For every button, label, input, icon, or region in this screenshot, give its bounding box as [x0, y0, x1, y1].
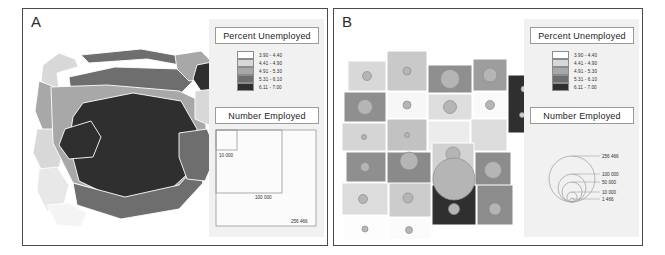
swatch-color-2 — [237, 59, 254, 67]
swatch-label-4: 5.31 - 6.10 — [259, 77, 282, 82]
prop-circle-b18 — [403, 193, 413, 203]
panel-b: B — [333, 8, 643, 246]
swatch-color-3 — [552, 67, 569, 75]
prop-circle-b22 — [362, 226, 368, 232]
prop-circle-b14 — [400, 152, 418, 170]
swatch-color-3 — [237, 67, 254, 75]
swatch-row: 6.11 - 7.00 — [552, 83, 597, 91]
panel-b-letter: B — [342, 13, 353, 30]
swatch-row: 4.41 - 4.90 — [237, 59, 282, 67]
legend-title-percent-unemployed-a: Percent Unemployed — [215, 27, 319, 44]
prop-circle-b23 — [406, 227, 413, 234]
prop-circle-b07 — [403, 101, 411, 109]
circle-label-256466: 256 466 — [602, 154, 619, 159]
size-legend-nested-circles: 256 466 100 000 50 000 10 000 1 466 — [528, 131, 636, 229]
legend-title-percent-unemployed-b: Percent Unemployed — [530, 27, 634, 44]
circle-break-256466 — [549, 156, 595, 202]
legend-title-number-employed-a: Number Employed — [215, 107, 319, 124]
cartogram-b-svg — [340, 33, 530, 239]
circle-label-10000: 10 000 — [602, 190, 616, 195]
prop-circle-b03 — [441, 70, 460, 89]
swatch-color-4 — [552, 75, 569, 83]
circle-break-10000 — [567, 192, 577, 202]
cartogram-a-svg — [29, 33, 219, 239]
legend-title-number-employed-b: Number Employed — [530, 107, 634, 124]
swatch-row: 5.31 - 6.10 — [552, 75, 597, 83]
swatch-label-4: 5.31 - 6.10 — [574, 77, 597, 82]
nested-squares-svg: 10 000 100 000 256 466 — [215, 129, 319, 229]
swatch-row: 3.90 - 4.40 — [552, 51, 597, 59]
prop-circle-b10 — [362, 135, 367, 140]
swatch-row: 6.11 - 7.00 — [237, 83, 282, 91]
swatch-color-5 — [552, 83, 569, 91]
size-legend-nested-squares: 10 000 100 000 256 466 — [215, 129, 319, 229]
square-label-100000: 100 000 — [255, 195, 272, 200]
swatch-color-1 — [552, 51, 569, 59]
swatch-label-1: 3.90 - 4.40 — [574, 53, 597, 58]
swatch-label-2: 4.41 - 4.90 — [259, 61, 282, 66]
prop-circle-b08 — [444, 101, 457, 114]
square-label-256466: 256 466 — [291, 219, 308, 224]
swatch-row: 3.90 - 4.40 — [237, 51, 282, 59]
prop-circle-b21 — [489, 203, 501, 215]
panel-a: A — [22, 8, 328, 246]
prop-circle-b20 — [449, 204, 460, 215]
prop-circle-b01 — [363, 72, 372, 81]
prop-circle-b11 — [405, 133, 410, 138]
circle-break-1466 — [570, 198, 574, 202]
square-break-256466 — [216, 130, 316, 226]
swatch-label-3: 4.91 - 5.30 — [259, 69, 282, 74]
prop-circle-b04 — [483, 68, 497, 82]
prop-circle-b19 — [433, 158, 475, 200]
choropleth-swatches-a: 3.90 - 4.40 4.41 - 4.90 4.91 - 5.30 5.31… — [237, 51, 282, 91]
panel-a-legend-column: Percent Unemployed 3.90 - 4.40 4.41 - 4.… — [209, 19, 324, 237]
figure-two-panel-cartograms: A — [0, 0, 665, 255]
panel-b-map — [340, 33, 530, 239]
swatch-color-4 — [237, 75, 254, 83]
panel-b-legend-column: Percent Unemployed 3.90 - 4.40 4.41 - 4.… — [524, 19, 639, 237]
circle-label-1466: 1 466 — [602, 197, 614, 202]
swatch-row: 5.31 - 6.10 — [237, 75, 282, 83]
choropleth-swatches-b: 3.90 - 4.40 4.41 - 4.90 4.91 - 5.30 5.31… — [552, 51, 597, 91]
swatch-label-1: 3.90 - 4.40 — [259, 53, 282, 58]
panel-a-map — [29, 33, 219, 239]
prop-circle-b02 — [403, 67, 411, 75]
panel-a-letter: A — [31, 13, 42, 30]
prop-circle-b16 — [485, 162, 502, 179]
swatch-color-2 — [552, 59, 569, 67]
swatch-row: 4.91 - 5.30 — [237, 67, 282, 75]
circle-label-50000: 50 000 — [602, 180, 616, 185]
prop-circle-b06 — [358, 100, 373, 115]
prop-circle-b17 — [359, 195, 368, 204]
prop-circle-b09 — [486, 101, 495, 110]
swatch-row: 4.41 - 4.90 — [552, 59, 597, 67]
square-label-10000: 10 000 — [219, 153, 233, 158]
swatch-color-1 — [237, 51, 254, 59]
circle-label-100000: 100 000 — [602, 172, 619, 177]
swatch-label-2: 4.41 - 4.90 — [574, 61, 597, 66]
swatch-label-5: 6.11 - 7.00 — [259, 85, 282, 90]
swatch-row: 4.91 - 5.30 — [552, 67, 597, 75]
prop-circle-b13 — [361, 163, 370, 172]
swatch-color-5 — [237, 83, 254, 91]
swatch-label-5: 6.11 - 7.00 — [574, 85, 597, 90]
nested-circles-svg: 256 466 100 000 50 000 10 000 1 466 — [528, 131, 636, 229]
region-b13 — [471, 119, 507, 151]
swatch-label-3: 4.91 - 5.30 — [574, 69, 597, 74]
